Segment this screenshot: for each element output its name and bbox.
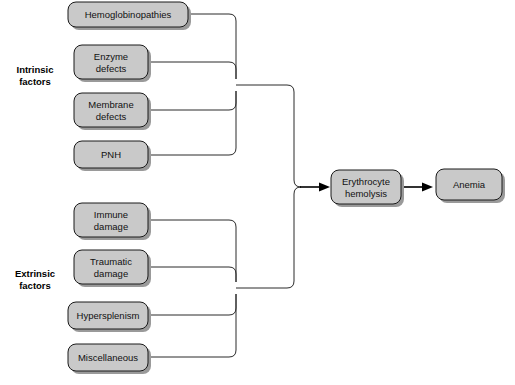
node-label-line2: damage: [94, 221, 128, 232]
node-label-line2: hemolysis: [345, 188, 387, 199]
node-label: Miscellaneous: [78, 352, 138, 363]
connector-miscellaneous: [148, 294, 236, 357]
connector-membrane-defects: [148, 91, 236, 110]
diagram-canvas: Hemoglobinopathies Enzyme defects Membra…: [0, 0, 515, 385]
group-label-intrinsic: Intrinsic factors: [17, 64, 54, 87]
connectors-intrinsic: [148, 14, 294, 180]
node-label-line1: Membrane: [88, 99, 133, 110]
connector-immune-damage: [148, 220, 236, 282]
connector-hemolysis-to-anemia: [404, 183, 433, 192]
node-traumatic-damage[interactable]: Traumatic damage: [74, 250, 151, 287]
node-label-line2: defects: [96, 63, 127, 74]
node-label-line2: damage: [94, 268, 128, 279]
connector-traumatic-damage: [148, 267, 236, 282]
flowchart-diagram: Hemoglobinopathies Enzyme defects Membra…: [0, 0, 515, 385]
node-label-line2: defects: [96, 111, 127, 122]
node-erythrocyte-hemolysis[interactable]: Erythrocyte hemolysis: [331, 170, 404, 207]
node-hemoglobinopathies[interactable]: Hemoglobinopathies: [68, 2, 191, 30]
node-anemia[interactable]: Anemia: [436, 169, 505, 203]
node-label-line1: Immune: [94, 209, 128, 220]
node-label-line1: Erythrocyte: [342, 176, 390, 187]
node-label: Hemoglobinopathies: [85, 9, 172, 20]
node-hypersplenism[interactable]: Hypersplenism: [68, 302, 151, 332]
group-label-line1: Intrinsic: [17, 64, 54, 75]
connector-enzyme-defects: [148, 62, 236, 79]
merge-tip: [294, 180, 301, 194]
connector-hypersplenism: [148, 294, 236, 315]
node-label-line1: Traumatic: [90, 256, 132, 267]
node-label-line1: Enzyme: [94, 51, 128, 62]
node-miscellaneous[interactable]: Miscellaneous: [68, 344, 151, 374]
node-membrane-defects[interactable]: Membrane defects: [74, 93, 151, 130]
arrow-head-to-hemolysis: [319, 183, 330, 192]
arrow-head-to-anemia: [422, 183, 433, 192]
group-label-line2: factors: [19, 280, 51, 291]
node-enzyme-defects[interactable]: Enzyme defects: [74, 45, 151, 82]
connector-pnh: [148, 91, 236, 155]
node-label: Anemia: [453, 179, 486, 190]
group-label-line2: factors: [19, 76, 51, 87]
node-immune-damage[interactable]: Immune damage: [74, 203, 151, 240]
connectors-extrinsic: [148, 194, 294, 357]
connector-intrinsic-junction: [236, 85, 294, 180]
connector-extrinsic-junction: [236, 194, 294, 288]
group-label-extrinsic: Extrinsic factors: [15, 268, 55, 291]
group-label-line1: Extrinsic: [15, 268, 55, 279]
connector-hemoglobinopathies: [188, 14, 236, 79]
connector-merge-to-hemolysis: [294, 180, 330, 194]
node-label: Hypersplenism: [77, 310, 140, 321]
node-label: PNH: [101, 149, 121, 160]
node-pnh[interactable]: PNH: [74, 141, 151, 171]
